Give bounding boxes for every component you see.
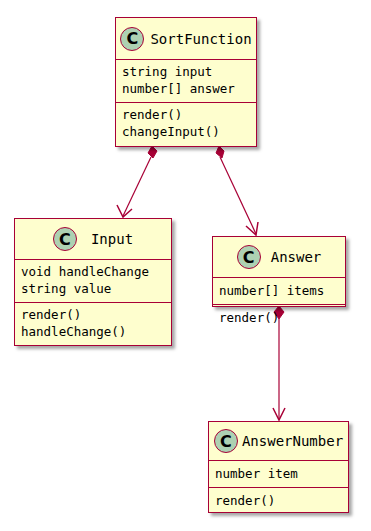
fields-section: number[] items [213, 278, 345, 304]
method: changeInput() [122, 123, 250, 140]
methods-section: render() [213, 304, 345, 329]
fields-section: void handleChange string value [15, 260, 171, 302]
class-answer[interactable]: C Answer number[] items render() [212, 236, 346, 307]
methods-section: render() [209, 487, 348, 512]
class-name: Answer [271, 249, 322, 265]
class-answernumber[interactable]: C AnswerNumber number item render() [208, 421, 349, 513]
methods-section: render() changeInput() [116, 102, 256, 143]
composition-sortfunction-input [117, 146, 157, 217]
class-header: C Input [15, 219, 171, 260]
class-header: C Answer [213, 237, 345, 278]
fields-section: string input number[] answer [116, 60, 256, 102]
method: render() [21, 306, 165, 323]
field: string value [21, 280, 165, 297]
class-input[interactable]: C Input void handleChange string value r… [14, 218, 172, 346]
class-c-icon: C [214, 429, 238, 453]
class-header: C SortFunction [116, 18, 256, 60]
class-c-icon: C [120, 27, 144, 51]
class-name: AnswerNumber [242, 433, 343, 449]
composition-diamond-icon [148, 146, 157, 158]
method: render() [215, 492, 342, 509]
field: void handleChange [21, 263, 165, 280]
arrowhead-icon [246, 222, 258, 235]
field: number[] answer [122, 80, 250, 97]
method: handleChange() [21, 323, 165, 340]
class-c-icon: C [237, 245, 261, 269]
method: render() [219, 309, 339, 326]
composition-diamond-icon [216, 146, 224, 158]
class-header: C AnswerNumber [209, 422, 348, 461]
fields-section: number item [209, 461, 348, 487]
field: number item [215, 465, 342, 482]
class-name: Input [91, 231, 133, 247]
method: render() [122, 106, 250, 123]
arrowhead-icon [117, 205, 132, 217]
class-c-icon: C [53, 227, 77, 251]
methods-section: render() handleChange() [15, 302, 171, 343]
field: string input [122, 63, 250, 80]
class-name: SortFunction [150, 31, 251, 47]
composition-sortfunction-answer [216, 146, 258, 235]
class-sortfunction[interactable]: C SortFunction string input number[] ans… [115, 17, 257, 147]
field: number[] items [219, 282, 339, 299]
